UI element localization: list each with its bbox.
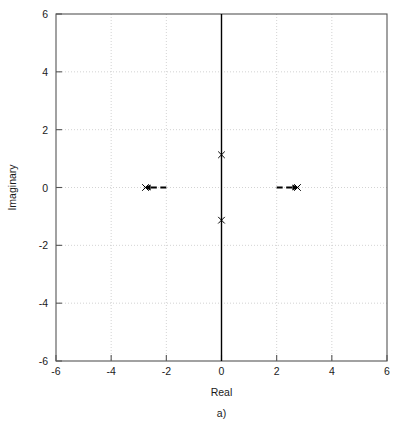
figure-background	[0, 0, 407, 429]
y-tick-label-4: 4	[42, 66, 48, 78]
y-tick-label--4: -4	[39, 297, 48, 309]
x-tick-label-2: 2	[274, 365, 280, 377]
y-tick-label--6: -6	[39, 355, 48, 367]
y-tick-label-2: 2	[42, 124, 48, 136]
x-tick-label-0: 0	[219, 365, 225, 377]
root-locus-figure: -6 -4 -2 0 2 4 6 6 4 2 0 -2 -4 -6 Real I…	[0, 0, 407, 429]
y-axis-title: Imaginary	[6, 164, 18, 211]
x-tick-label--4: -4	[106, 365, 115, 377]
x-axis-title: Real	[211, 386, 233, 398]
y-tick-label-6: 6	[42, 8, 48, 20]
y-tick-label--2: -2	[39, 239, 48, 251]
figure-caption: a)	[217, 407, 226, 419]
y-tick-label-0: 0	[42, 182, 48, 194]
x-tick-label-6: 6	[384, 365, 390, 377]
x-tick-label--6: -6	[51, 365, 60, 377]
root-locus-plot: -6 -4 -2 0 2 4 6 6 4 2 0 -2 -4 -6 Real I…	[0, 0, 407, 429]
x-tick-label--2: -2	[162, 365, 171, 377]
x-tick-label-4: 4	[329, 365, 335, 377]
